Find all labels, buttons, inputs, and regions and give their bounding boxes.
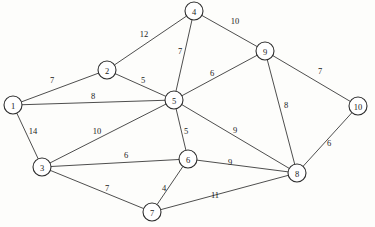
graph-diagram-canvas: 781412510677105964911867 12345678910 xyxy=(0,0,375,227)
node-label-5: 5 xyxy=(172,96,176,106)
graph-edge xyxy=(197,160,288,172)
nodes-layer: 12345678910 xyxy=(4,2,367,221)
graph-edge xyxy=(202,15,257,46)
node-label-3: 3 xyxy=(40,163,44,173)
edge-weight-label: 6 xyxy=(327,138,331,148)
node-label-10: 10 xyxy=(354,102,363,112)
graph-node-6[interactable]: 6 xyxy=(179,150,197,168)
graph-node-2[interactable]: 2 xyxy=(98,61,116,79)
edge-weight-label: 8 xyxy=(284,100,288,110)
graph-svg: 781412510677105964911867 12345678910 xyxy=(0,0,375,227)
edge-weight-label: 6 xyxy=(210,68,214,78)
edge-weights-layer: 781412510677105964911867 xyxy=(29,16,331,200)
graph-edge xyxy=(182,105,290,169)
graph-edge xyxy=(267,60,294,165)
edge-weight-label: 10 xyxy=(93,126,102,136)
node-label-7: 7 xyxy=(150,208,154,218)
node-label-1: 1 xyxy=(11,101,15,111)
edge-weight-label: 7 xyxy=(50,75,54,85)
graph-edge xyxy=(50,170,143,208)
graph-node-8[interactable]: 8 xyxy=(288,164,306,182)
edge-weight-label: 5 xyxy=(141,75,145,85)
graph-node-10[interactable]: 10 xyxy=(349,97,367,115)
edge-weight-label: 8 xyxy=(91,91,95,101)
graph-edge xyxy=(50,104,166,163)
edge-weight-label: 11 xyxy=(211,190,219,200)
edge-weight-label: 9 xyxy=(233,125,237,135)
node-label-9: 9 xyxy=(263,47,267,57)
node-label-8: 8 xyxy=(295,169,299,179)
graph-node-1[interactable]: 1 xyxy=(4,96,22,114)
graph-edge xyxy=(273,56,351,102)
edge-weight-label: 6 xyxy=(124,150,128,160)
graph-node-7[interactable]: 7 xyxy=(143,203,161,221)
edge-weight-label: 14 xyxy=(29,126,38,136)
graph-edge xyxy=(51,159,179,166)
graph-node-3[interactable]: 3 xyxy=(33,158,51,176)
edge-weight-label: 9 xyxy=(228,157,232,167)
graph-edge xyxy=(114,16,186,65)
graph-edge xyxy=(161,175,289,209)
graph-node-5[interactable]: 5 xyxy=(165,91,183,109)
graph-node-4[interactable]: 4 xyxy=(185,2,203,20)
node-label-2: 2 xyxy=(105,66,109,76)
graph-edge xyxy=(182,55,257,95)
edge-weight-label: 10 xyxy=(231,16,240,26)
edge-weight-label: 5 xyxy=(184,126,188,136)
node-label-6: 6 xyxy=(186,155,190,165)
graph-edge xyxy=(21,73,98,102)
edge-weight-label: 7 xyxy=(105,183,109,193)
graph-edge xyxy=(17,113,38,159)
edge-weight-label: 7 xyxy=(318,66,322,76)
graph-node-9[interactable]: 9 xyxy=(256,42,274,60)
edge-weight-label: 7 xyxy=(178,46,182,56)
edge-weight-label: 12 xyxy=(140,29,149,39)
